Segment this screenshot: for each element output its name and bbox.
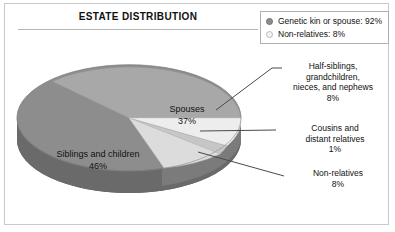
chart-stage: ESTATE DISTRIBUTION Genetic kin or spous… [0,0,395,232]
callout-half-siblings: Half-siblings, grandchildren, nieces, an… [276,61,390,103]
callout-cousins: Cousins and distant relatives 1% [282,123,388,155]
callout-non-relatives: Non-relatives 8% [288,168,388,189]
callout-leader-lines [0,0,395,232]
